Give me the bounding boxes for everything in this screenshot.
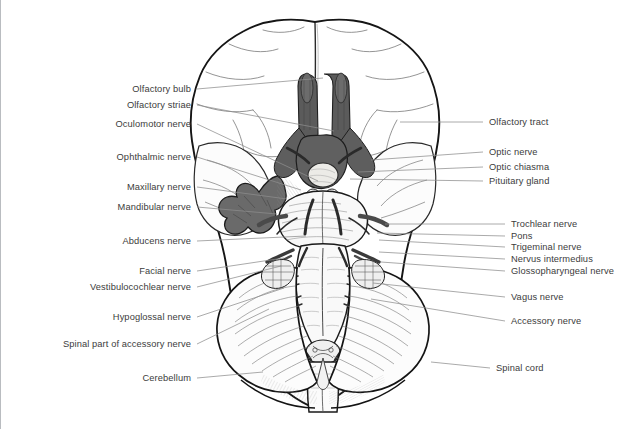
- label-trigeminal-nerve: Trigeminal nerve: [511, 242, 582, 253]
- label-oculomotor-nerve: Oculomotor nerve: [1, 119, 191, 130]
- label-facial-nerve: Facial nerve: [1, 266, 191, 277]
- label-accessory-nerve: Accessory nerve: [511, 316, 581, 327]
- label-trochlear-nerve: Trochlear nerve: [511, 219, 577, 230]
- label-pons: Pons: [511, 231, 533, 242]
- label-mandibular-nerve: Mandibular nerve: [1, 202, 191, 213]
- label-pituitary-gland: Pituitary gland: [489, 176, 549, 187]
- label-spinal-part-accessory: Spinal part of accessory nerve: [1, 339, 191, 350]
- label-glossopharyngeal-nerve: Glossopharyngeal nerve: [511, 266, 614, 277]
- leader-spinal-cord: [431, 362, 490, 368]
- label-ophthalmic-nerve: Ophthalmic nerve: [1, 152, 191, 163]
- label-optic-chiasma: Optic chiasma: [489, 162, 549, 173]
- label-maxillary-nerve: Maxillary nerve: [1, 182, 191, 193]
- label-cerebellum: Cerebellum: [1, 373, 191, 384]
- label-olfactory-striae: Olfactory striae: [1, 100, 191, 111]
- label-abducens-nerve: Abducens nerve: [1, 236, 191, 247]
- label-vestibulocochlear-nerve: Vestibulocochlear nerve: [1, 282, 191, 293]
- label-olfactory-bulb: Olfactory bulb: [1, 84, 191, 95]
- anatomy-figure: Olfactory bulbOlfactory striaeOculomotor…: [0, 0, 628, 429]
- label-spinal-cord: Spinal cord: [496, 363, 544, 374]
- label-vagus-nerve: Vagus nerve: [511, 292, 564, 303]
- label-optic-nerve: Optic nerve: [489, 147, 538, 158]
- label-olfactory-tract: Olfactory tract: [489, 117, 548, 128]
- label-nervus-intermedius: Nervus intermedius: [511, 254, 593, 265]
- label-hypoglossal-nerve: Hypoglossal nerve: [1, 312, 191, 323]
